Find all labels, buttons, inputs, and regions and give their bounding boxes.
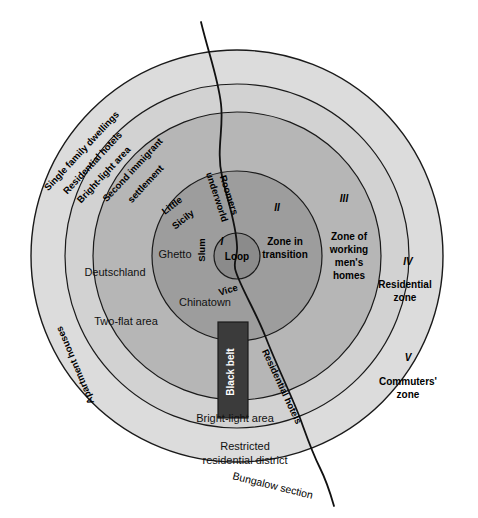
label-bungalow-section: Bungalow section xyxy=(232,469,315,501)
label-chinatown: Chinatown xyxy=(179,296,231,308)
zone-1-title: Loop xyxy=(225,251,249,262)
zone-4-numeral: IV xyxy=(403,256,414,267)
zone-5-title-line1: Commuters' xyxy=(379,376,437,387)
zone-2-title-line2: transition xyxy=(262,249,308,260)
label-black-belt: Black belt xyxy=(225,348,236,396)
zone-5-title-line2: zone xyxy=(397,389,420,400)
label-deutschland: Deutschland xyxy=(84,266,145,278)
burgess-concentric-zone-diagram: I Loop II Zone in transition III Zone of… xyxy=(0,0,478,518)
zone-4-title-line1: Residential xyxy=(378,279,432,290)
zone-2-title-line1: Zone in xyxy=(267,236,303,247)
zone-3-numeral: III xyxy=(340,193,349,204)
label-restricted-line1: Restricted xyxy=(220,440,270,452)
zone-3-title-line4: homes xyxy=(333,270,366,281)
zone-1-numeral: I xyxy=(221,236,224,247)
figure-canvas: I Loop II Zone in transition III Zone of… xyxy=(0,0,478,518)
label-restricted-line2: residential district xyxy=(203,454,288,466)
label-two-flat-area: Two-flat area xyxy=(94,315,158,327)
zone-4-title-line2: zone xyxy=(394,292,417,303)
zone-3-title-line3: men's xyxy=(335,257,364,268)
label-slum: Slum xyxy=(196,238,207,261)
label-ghetto: Ghetto xyxy=(158,248,191,260)
label-bright-light-area-lower: Bright-light area xyxy=(196,412,275,424)
zone-3-title-line1: Zone of xyxy=(331,231,368,242)
zone-2-numeral: II xyxy=(274,202,280,213)
zone-3-title-line2: working xyxy=(329,244,368,255)
